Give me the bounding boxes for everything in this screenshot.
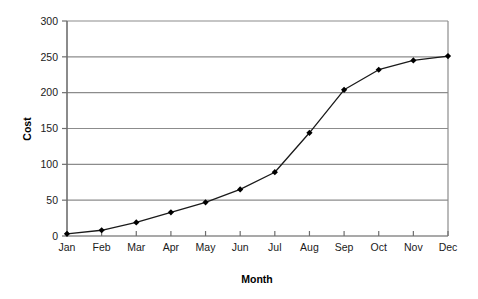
x-tick-label-Jan: Jan	[59, 241, 76, 253]
y-tick-label-250: 250	[40, 51, 58, 63]
x-tick-label-Apr: Apr	[163, 241, 180, 253]
x-tick-label-Feb: Feb	[93, 241, 111, 253]
x-tick-label-Mar: Mar	[127, 241, 146, 253]
x-axis-title: Month	[241, 273, 273, 285]
y-tick-label-100: 100	[40, 158, 58, 170]
y-tick-group: 050100150200250300	[40, 15, 67, 242]
y-tick-label-300: 300	[40, 15, 58, 27]
x-tick-label-Sep: Sep	[335, 241, 354, 253]
x-tick-label-Oct: Oct	[371, 241, 387, 253]
y-tick-label-0: 0	[52, 230, 58, 242]
line-chart: 050100150200250300 JanFebMarAprMayJunJul…	[0, 0, 478, 299]
y-axis-title: Cost	[21, 117, 33, 141]
x-tick-label-Jun: Jun	[232, 241, 249, 253]
y-tick-label-50: 50	[46, 194, 58, 206]
x-tick-label-Aug: Aug	[300, 241, 319, 253]
x-tick-label-Dec: Dec	[439, 241, 458, 253]
x-tick-label-Nov: Nov	[404, 241, 423, 253]
chart-canvas: 050100150200250300 JanFebMarAprMayJunJul…	[0, 0, 478, 299]
x-tick-label-Jul: Jul	[268, 241, 281, 253]
y-tick-label-200: 200	[40, 86, 58, 98]
x-tick-label-May: May	[196, 241, 217, 253]
y-tick-label-150: 150	[40, 122, 58, 134]
